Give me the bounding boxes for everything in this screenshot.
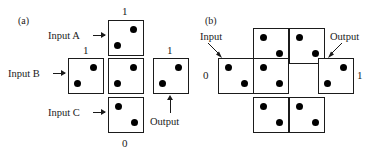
pip-bottom-left [114,42,121,49]
die-middle-b [253,58,289,94]
bit-label-top-a: 1 [122,6,128,17]
pip-top-left [296,34,303,41]
pip-bottom-left [159,80,166,87]
pip-bottom-left [114,80,121,87]
pip-bottom-left [324,80,331,87]
pip-bottom-left [74,80,81,87]
pip-top-right [130,64,137,71]
pip-top-right [90,64,97,71]
bit-label-right-a: 1 [167,45,173,56]
pip-top-left [260,64,267,71]
figure-canvas: (a) 1 Input A 1 Input B 1 Output Input C… [0,0,387,152]
die-bottom-left-b [253,97,289,133]
arrow-output-b-panel [320,42,346,60]
pip-top-left [225,64,232,71]
pip-top-left [260,34,267,41]
die-input-b [68,58,104,94]
die-center-a [108,58,144,94]
label-input-c: Input C [48,108,80,119]
arrow-input-c [93,112,105,113]
die-output-b [318,58,354,94]
pip-bottom-right [131,119,138,126]
label-input-a: Input A [48,31,80,42]
panel-a-label: (a) [18,16,29,26]
die-input-b-panel [218,58,254,94]
pip-top-left [296,103,303,110]
pip-bottom-right [312,50,319,57]
pip-bottom-right [312,119,319,126]
bit-label-output-b-panel: 1 [357,70,363,81]
bit-label-input-b-panel: 0 [203,70,209,81]
die-bottom-right-b [289,97,325,133]
pip-top-right [175,64,182,71]
label-output-b-panel: Output [330,32,359,43]
panel-b-label: (b) [205,16,217,26]
label-input-b: Input B [8,69,40,80]
die-output-a [153,58,189,94]
label-output-a: Output [150,117,179,128]
pip-bottom-right [276,80,283,87]
bit-label-bottom-a: 0 [122,138,128,149]
pip-top-left [115,103,122,110]
pip-bottom-right [276,119,283,126]
pip-bottom-right [241,80,248,87]
pip-top-right [130,26,137,33]
pip-top-right [340,64,347,71]
arrow-input-b-panel [206,42,232,60]
label-input-b-panel: Input [200,32,222,43]
arrow-output-a [170,100,171,113]
pip-top-left [260,103,267,110]
arrow-input-b [53,73,65,74]
bit-label-left-a: 1 [83,45,89,56]
die-input-c [108,97,144,133]
arrow-input-a [93,35,105,36]
die-input-a [108,20,144,56]
pip-bottom-right [276,50,283,57]
